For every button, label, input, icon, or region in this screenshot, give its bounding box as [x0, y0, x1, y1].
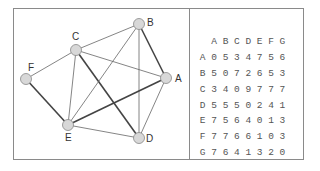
edge-e-a	[68, 78, 166, 125]
matrix-cell: 6	[231, 115, 242, 126]
matrix-col-header: B	[220, 36, 231, 47]
matrix-row-header: D	[197, 100, 208, 111]
matrix-col-header: D	[243, 36, 254, 47]
matrix-cell: 0	[243, 100, 254, 111]
matrix-cell: 3	[208, 84, 219, 95]
matrix-header-row: A B C D E F G	[197, 34, 288, 50]
matrix-row-header: F	[197, 131, 208, 142]
matrix-cell: 4	[243, 52, 254, 63]
matrix-row-header: B	[197, 68, 208, 79]
matrix-cell: 2	[265, 147, 276, 158]
matrix-cell: 0	[208, 52, 219, 63]
matrix-cell: 7	[254, 84, 265, 95]
matrix-cell: 7	[208, 147, 219, 158]
matrix-row-header: E	[197, 115, 208, 126]
node-d	[134, 133, 145, 144]
node-b	[134, 19, 145, 30]
matrix-cell: 1	[265, 115, 276, 126]
matrix-cell: 3	[277, 115, 288, 126]
matrix-cell: 0	[231, 84, 242, 95]
matrix-col-header: E	[254, 36, 265, 47]
matrix-cell: 3	[277, 131, 288, 142]
matrix-cell: 1	[277, 100, 288, 111]
node-label-d: D	[146, 133, 153, 144]
matrix-row: E7564013	[197, 113, 288, 129]
matrix-cell: 5	[208, 100, 219, 111]
matrix-cell: 7	[277, 84, 288, 95]
edge-e-d	[68, 125, 139, 138]
matrix-row-header: A	[197, 52, 208, 63]
node-label-a: A	[175, 73, 182, 84]
matrix-cell: 0	[265, 131, 276, 142]
node-a	[161, 73, 172, 84]
matrix-row: F7766103	[197, 129, 288, 145]
node-c	[71, 45, 82, 56]
matrix-cell: 0	[254, 115, 265, 126]
edge-a-d	[139, 78, 166, 138]
matrix-col-header: A	[208, 36, 219, 47]
matrix-cell: 4	[243, 115, 254, 126]
edge-c-e	[68, 50, 76, 125]
matrix-cell: 7	[231, 68, 242, 79]
matrix-col-header: C	[231, 36, 242, 47]
matrix-cell: 5	[220, 115, 231, 126]
edge-c-a	[76, 50, 166, 78]
matrix-row-header: G	[197, 147, 208, 158]
matrix-col-header: F	[265, 36, 276, 47]
matrix-cell: 7	[254, 52, 265, 63]
graph-nodes: ABCDEF	[21, 17, 183, 144]
matrix-row: B5072653	[197, 66, 288, 82]
matrix-cell: 6	[277, 52, 288, 63]
matrix-col-header: G	[277, 36, 288, 47]
matrix-cell: 3	[231, 52, 242, 63]
node-f	[21, 74, 32, 85]
matrix-body: A0534756B5072653C3409777D5550241E7564013…	[197, 50, 288, 161]
matrix-cell: 6	[243, 131, 254, 142]
matrix-cell: 0	[277, 147, 288, 158]
edge-f-e	[26, 79, 68, 125]
matrix-cell: 5	[231, 100, 242, 111]
matrix-cell: 9	[243, 84, 254, 95]
matrix-cell: 7	[208, 131, 219, 142]
matrix-cell: 0	[220, 68, 231, 79]
matrix-row-header: C	[197, 84, 208, 95]
distance-matrix: A B C D E F G A0534756B5072653C3409777D5…	[197, 34, 288, 160]
node-label-f: F	[28, 62, 34, 73]
matrix-cell: 5	[220, 52, 231, 63]
matrix-cell: 7	[208, 115, 219, 126]
node-label-b: B	[147, 17, 154, 28]
edge-b-a	[139, 24, 166, 78]
matrix-row: A0534756	[197, 50, 288, 66]
matrix-cell: 5	[208, 68, 219, 79]
matrix-row: G7641320	[197, 145, 288, 161]
edge-c-d	[76, 50, 139, 138]
matrix-cell: 5	[265, 68, 276, 79]
matrix-row: C3409777	[197, 81, 288, 97]
matrix-cell: 6	[231, 131, 242, 142]
matrix-cell: 7	[220, 131, 231, 142]
matrix-cell: 6	[254, 68, 265, 79]
matrix-cell: 5	[220, 100, 231, 111]
matrix-cell: 2	[243, 68, 254, 79]
matrix-cell: 4	[220, 84, 231, 95]
matrix-cell: 1	[254, 131, 265, 142]
matrix-cell: 3	[277, 68, 288, 79]
node-e	[63, 120, 74, 131]
matrix-cell: 5	[265, 52, 276, 63]
node-label-c: C	[72, 31, 79, 42]
matrix-cell: 7	[265, 84, 276, 95]
matrix-cell: 3	[254, 147, 265, 158]
matrix-cell: 6	[220, 147, 231, 158]
graph-edges	[26, 24, 166, 138]
matrix-cell: 4	[265, 100, 276, 111]
matrix-cell: 2	[254, 100, 265, 111]
matrix-row: D5550241	[197, 97, 288, 113]
node-label-e: E	[65, 132, 72, 143]
matrix-cell: 1	[243, 147, 254, 158]
matrix-cell: 4	[231, 147, 242, 158]
